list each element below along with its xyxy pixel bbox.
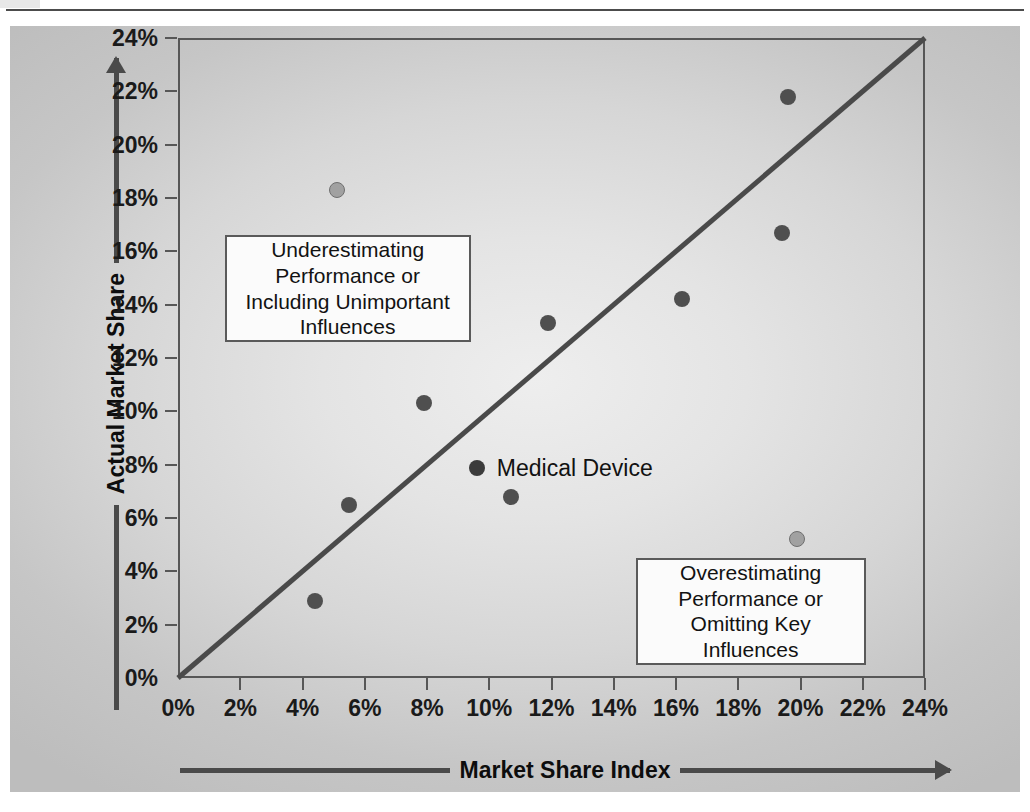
page-top-rule [6,9,1024,11]
data-point [329,182,345,198]
y-tick-label: 14% [112,291,158,318]
x-tick-label: 24% [902,695,948,722]
arrow-right-icon [680,768,950,773]
x-tick-label: 4% [286,695,319,722]
data-point [416,395,432,411]
x-tick-label: 20% [777,695,823,722]
y-tick-mark [165,250,177,252]
y-tick-mark [165,517,177,519]
x-tick-label: 16% [653,695,699,722]
y-tick-label: 6% [125,505,158,532]
callout-over-line-3: Omitting Key [678,611,823,637]
x-axis-title-group: Market Share Index [180,752,950,788]
x-tick-label: 8% [410,695,443,722]
x-tick-mark [675,678,677,690]
data-point [774,225,790,241]
x-tick-mark [924,678,926,690]
x-axis-title-bar [180,768,450,773]
y-tick-label: 0% [125,665,158,692]
data-point [674,291,690,307]
callout-overestimating: Overestimating Performance or Omitting K… [636,558,866,665]
data-point [540,315,556,331]
callout-over-line-4: Influences [678,637,823,663]
y-tick-label: 12% [112,345,158,372]
x-tick-label: 22% [840,695,886,722]
callout-under-line-2: Performance or [245,263,449,289]
x-tick-mark [862,678,864,690]
y-tick-label: 8% [125,451,158,478]
x-tick-mark [488,678,490,690]
x-tick-label: 18% [715,695,761,722]
y-tick-mark [165,197,177,199]
x-tick-label: 6% [348,695,381,722]
x-tick-label: 12% [528,695,574,722]
x-tick-label: 10% [466,695,512,722]
page-top-rule-mask [0,0,40,8]
y-tick-label: 24% [112,25,158,52]
y-tick-mark [165,357,177,359]
y-axis-title-bar [114,505,119,710]
callout-under-line-3: Including Unimportant [245,289,449,315]
y-tick-label: 18% [112,185,158,212]
callout-over-line-1: Overestimating [678,560,823,586]
data-point [307,593,323,609]
y-tick-mark [165,410,177,412]
x-tick-mark [302,678,304,690]
callout-under-line-4: Influences [245,314,449,340]
callout-under-line-1: Underestimating [245,237,449,263]
x-tick-label: 2% [224,695,257,722]
data-point [780,89,796,105]
x-tick-mark [426,678,428,690]
y-tick-label: 16% [112,238,158,265]
legend-label: Medical Device [497,455,653,482]
y-tick-mark [165,624,177,626]
data-point [503,489,519,505]
y-tick-label: 22% [112,78,158,105]
x-axis-title: Market Share Index [460,757,671,784]
plot-area: 0%2%4%6%8%10%12%14%16%18%20%22%24% 0%2%4… [178,38,925,678]
x-tick-mark [239,678,241,690]
x-tick-mark [551,678,553,690]
callout-over-line-2: Performance or [678,586,823,612]
y-tick-label: 2% [125,611,158,638]
legend-marker-icon [469,460,485,476]
y-tick-mark [165,570,177,572]
figure-page: Actual Market Share Market Share Index 0… [0,0,1030,812]
y-tick-mark [165,144,177,146]
y-tick-mark [165,37,177,39]
y-tick-label: 4% [125,558,158,585]
y-tick-label: 10% [112,398,158,425]
legend: Medical Device [469,455,653,482]
x-tick-mark [364,678,366,690]
y-tick-mark [165,304,177,306]
callout-underestimating: Underestimating Performance or Including… [225,235,471,342]
data-point [789,531,805,547]
x-tick-mark [613,678,615,690]
y-tick-mark [165,90,177,92]
y-tick-mark [165,464,177,466]
x-tick-label: 0% [161,695,194,722]
x-tick-mark [737,678,739,690]
data-point [341,497,357,513]
x-tick-mark [800,678,802,690]
x-tick-label: 14% [591,695,637,722]
y-tick-label: 20% [112,131,158,158]
